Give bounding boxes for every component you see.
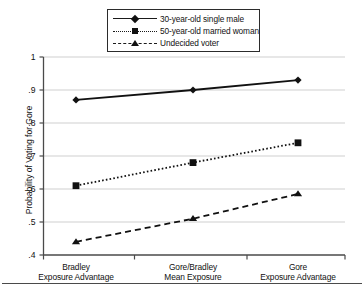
y-tick-label: 1 (14, 52, 36, 62)
series-line-2 (76, 194, 298, 242)
x-category-label-line: Gore (242, 262, 354, 272)
data-point-marker (294, 190, 302, 196)
x-category-label-line: Mean Exposure (137, 272, 249, 282)
x-category-label-line: Exposure Advantage (242, 272, 354, 282)
x-category-label: GoreExposure Advantage (242, 262, 354, 282)
y-tick-label: .8 (14, 118, 36, 128)
y-tick-label: .4 (14, 250, 36, 260)
y-tick-label: .9 (14, 85, 36, 95)
figure: 30-year-old single male 50-year-old marr… (0, 0, 364, 296)
series-line-1 (76, 143, 298, 186)
x-category-label: BradleyExposure Advantage (20, 262, 132, 282)
data-point-marker (190, 159, 197, 166)
x-category-label: Gore/BradleyMean Exposure (137, 262, 249, 282)
y-tick-label: .5 (14, 217, 36, 227)
data-point-marker (295, 139, 302, 146)
footer-divider (2, 283, 362, 284)
x-category-label-line: Bradley (20, 262, 132, 272)
y-tick-label: .6 (14, 184, 36, 194)
y-tick-label: .7 (14, 151, 36, 161)
data-point-marker (72, 96, 79, 103)
plot-area (0, 0, 364, 296)
x-category-label-line: Gore/Bradley (137, 262, 249, 272)
data-point-marker (294, 77, 301, 84)
x-category-label-line: Exposure Advantage (20, 272, 132, 282)
data-point-marker (73, 182, 80, 189)
data-point-marker (189, 86, 196, 93)
